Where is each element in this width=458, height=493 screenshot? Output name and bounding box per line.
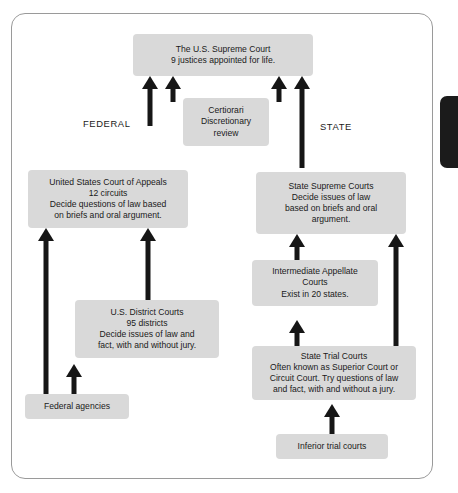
node-certiorari-label: Certiorari Discretionary review <box>187 105 265 139</box>
arrow-inferior-to-state-trial <box>324 404 340 434</box>
arrow-shaft <box>295 332 300 346</box>
node-inferior-trial-courts[interactable]: Inferior trial courts <box>276 434 388 459</box>
arrow-shaft <box>72 376 77 394</box>
node-certiorari[interactable]: Certiorari Discretionary review <box>183 98 269 146</box>
arrow-shaft <box>171 88 176 102</box>
arrow-shaft <box>44 240 49 394</box>
node-supreme-court-label: The U.S. Supreme Court 9 justices appoin… <box>137 44 309 66</box>
node-district-courts[interactable]: U.S. District Courts 95 districts Decide… <box>75 300 219 358</box>
node-inferior-trial-courts-label: Inferior trial courts <box>280 441 384 452</box>
arrow-appeals-to-supreme <box>142 76 158 126</box>
arrow-certiorari-right <box>271 76 287 102</box>
label-federal: FEDERAL <box>83 118 130 129</box>
node-supreme-court[interactable]: The U.S. Supreme Court 9 justices appoin… <box>133 34 313 76</box>
arrow-state-trial-to-intermediate <box>289 320 305 346</box>
node-state-supreme-courts[interactable]: State Supreme Courts Decide issues of la… <box>256 172 406 234</box>
diagram-canvas: The U.S. Supreme Court 9 justices appoin… <box>0 0 458 493</box>
arrow-shaft <box>148 88 153 126</box>
arrow-shaft <box>300 88 305 168</box>
node-federal-agencies-label: Federal agencies <box>29 401 125 412</box>
arrow-federal-agencies-to-appeals <box>38 228 54 394</box>
node-federal-agencies[interactable]: Federal agencies <box>25 394 129 419</box>
arrow-shaft <box>394 246 399 346</box>
arrow-federal-agencies-to-district <box>66 364 82 394</box>
arrow-shaft <box>146 240 151 300</box>
label-state: STATE <box>320 121 352 132</box>
arrow-state-supreme-to-supreme <box>294 76 310 168</box>
arrow-shaft <box>277 88 282 102</box>
node-intermediate-appellate-courts-label: Intermediate Appellate Courts Exist in 2… <box>256 266 374 300</box>
node-district-courts-label: U.S. District Courts 95 districts Decide… <box>79 307 215 352</box>
page-tab-marker <box>440 96 458 168</box>
node-court-of-appeals[interactable]: United States Court of Appeals 12 circui… <box>28 170 188 228</box>
arrow-district-to-appeals <box>140 228 156 300</box>
arrow-shaft <box>330 416 335 434</box>
node-state-supreme-courts-label: State Supreme Courts Decide issues of la… <box>260 181 402 226</box>
node-intermediate-appellate-courts[interactable]: Intermediate Appellate Courts Exist in 2… <box>252 260 378 306</box>
node-state-trial-courts[interactable]: State Trial Courts Often known as Superi… <box>252 346 416 400</box>
arrow-certiorari-left <box>165 76 181 102</box>
arrow-state-trial-to-state-supreme <box>388 234 404 346</box>
node-state-trial-courts-label: State Trial Courts Often known as Superi… <box>256 351 412 396</box>
node-court-of-appeals-label: United States Court of Appeals 12 circui… <box>32 177 184 222</box>
